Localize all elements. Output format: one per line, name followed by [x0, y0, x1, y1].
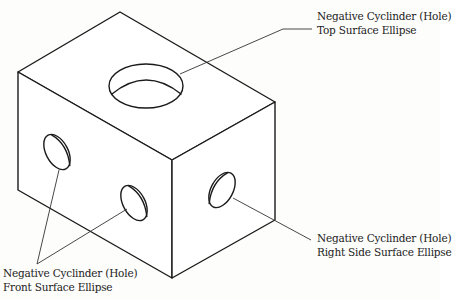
- callout-front-subtitle: Front Surface Ellipse: [3, 280, 137, 294]
- callout-top-subtitle: Top Surface Ellipse: [317, 23, 451, 37]
- callout-top-title: Negative Cyclinder (Hole): [317, 9, 451, 23]
- callout-front-surface: Negative Cyclinder (Hole) Front Surface …: [3, 266, 137, 294]
- callout-right-subtitle: Right Side Surface Ellipse: [317, 245, 452, 259]
- callout-right-surface: Negative Cyclinder (Hole) Right Side Sur…: [317, 231, 452, 259]
- callout-right-title: Negative Cyclinder (Hole): [317, 231, 452, 245]
- callout-top-surface: Negative Cyclinder (Hole) Top Surface El…: [317, 9, 451, 37]
- callout-front-title: Negative Cyclinder (Hole): [3, 266, 137, 280]
